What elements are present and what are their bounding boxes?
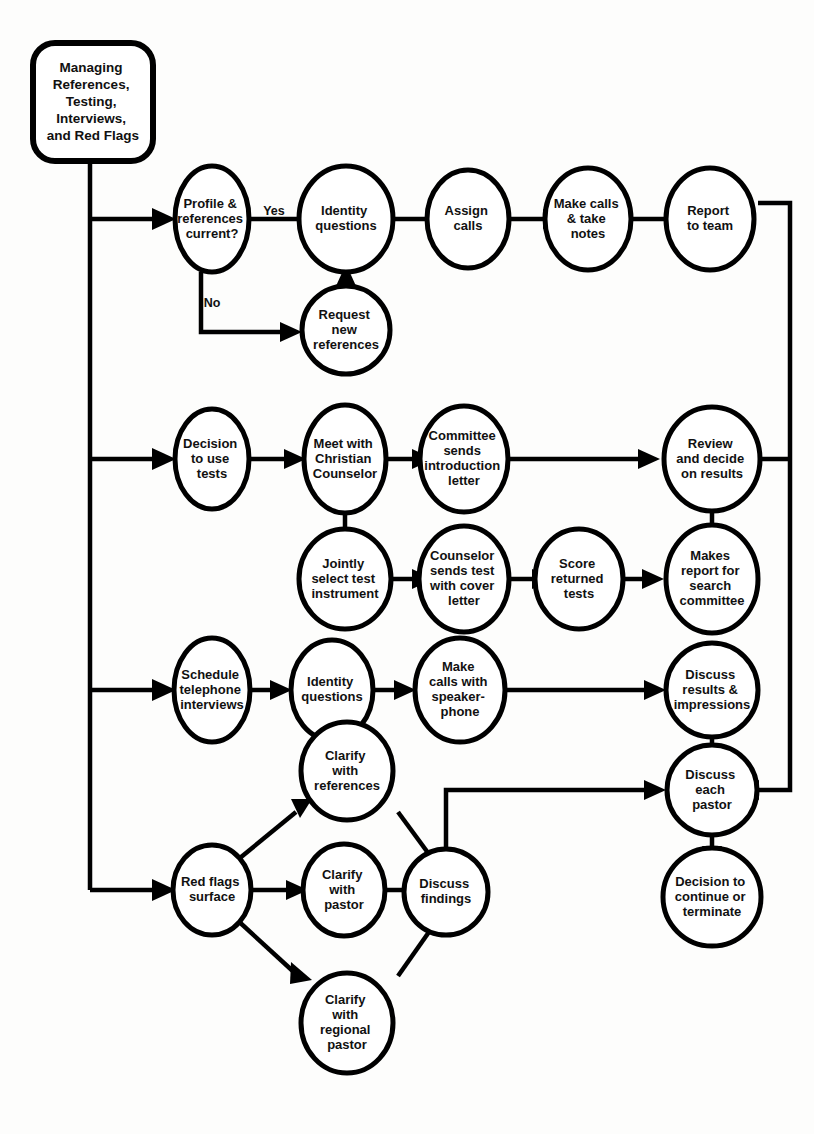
node-start[interactable]: Managing References, Testing, Interviews… (33, 43, 153, 161)
arrowhead-committee-to-review (638, 449, 660, 469)
node-make-calls-with-speakerphone[interactable]: Make calls with speaker- phone (415, 638, 505, 742)
node-assign-calls[interactable]: Assign calls (427, 170, 509, 268)
arrowhead-to-decision-tests (152, 448, 176, 470)
arrowhead-findings-to-each-pastor (644, 780, 666, 800)
node-meet-with-christian-counselor[interactable]: Meet with Christian Counselor (304, 405, 386, 513)
schedule-interviews-node-label: Schedule telephone interviews (179, 667, 244, 712)
arrowhead-score-to-makesreport (642, 569, 664, 589)
node-jointly-select-test-instrument[interactable]: Jointly select test instrument (299, 529, 391, 629)
node-discuss-each-pastor[interactable]: Discuss each pastor (667, 745, 757, 835)
arrowhead-to-profile (152, 208, 176, 230)
red-flags-node-label: Red flags surface (181, 874, 243, 904)
discuss-findings-node-label: Discuss findings (419, 876, 473, 906)
node-discuss-results-impressions[interactable]: Discuss results & impressions (666, 643, 758, 737)
identity1-node-label: Identity questions (315, 203, 376, 233)
node-decision-to-use-tests[interactable]: Decision to use tests (175, 409, 249, 509)
node-red-flags-surface[interactable]: Red flags surface (173, 845, 251, 935)
node-report-to-team[interactable]: Report to team (666, 168, 754, 270)
edge-discuss-findings-to-each-pastor (446, 790, 646, 850)
decision-continue-node-label: Decision to continue or terminate (675, 874, 749, 919)
arrowhead-redflags-to-clarify-regional (290, 962, 312, 984)
node-make-calls-take-notes[interactable]: Make calls & take notes (545, 168, 631, 270)
node-identity-questions-1[interactable]: Identity questions (299, 166, 393, 272)
node-makes-report-for-search-committee[interactable]: Makes report for search committee (666, 525, 758, 633)
edge-redflags-to-clarify-regional (235, 918, 296, 974)
edge-label-yes: Yes (263, 204, 285, 218)
report-to-team-node-label: Report to team (687, 203, 733, 233)
flowchart-svg: Yes No (0, 0, 814, 1134)
node-clarify-with-regional-pastor[interactable]: Clarify with regional pastor (301, 973, 393, 1073)
clarify-regional-node-label: Clarify with regional pastor (320, 992, 374, 1052)
node-score-returned-tests[interactable]: Score returned tests (535, 529, 623, 629)
profile-node-label: Profile & references current? (177, 196, 246, 241)
node-discuss-findings[interactable]: Discuss findings (404, 849, 488, 935)
edge-redflags-to-clarify-references (235, 812, 296, 862)
node-request-new-references[interactable]: Request new references (302, 286, 390, 374)
node-clarify-with-pastor[interactable]: Clarify with pastor (303, 844, 385, 936)
node-profile-references-current[interactable]: Profile & references current? (175, 166, 249, 272)
edge-report-to-bus (757, 203, 790, 790)
arrowhead-speakerphone-to-discuss-results (644, 680, 666, 700)
node-review-and-decide-on-results[interactable]: Review and decide on results (664, 407, 760, 511)
arrowhead-no-to-request (280, 322, 302, 342)
node-counselor-sends-test-with-cover-letter[interactable]: Counselor sends test with cover letter (419, 526, 509, 632)
diagram-canvas: Yes No (0, 0, 814, 1134)
identity2-node-label: Identity questions (301, 674, 362, 704)
node-clarify-with-references[interactable]: Clarify with references (301, 722, 393, 820)
meet-counselor-node-label: Meet with Christian Counselor (313, 436, 377, 481)
node-schedule-telephone-interviews[interactable]: Schedule telephone interviews (174, 638, 250, 742)
edge-label-no: No (204, 296, 221, 310)
node-committee-sends-introduction-letter[interactable]: Committee sends introduction letter (420, 406, 508, 512)
node-decision-to-continue-or-terminate[interactable]: Decision to continue or terminate (663, 848, 761, 946)
